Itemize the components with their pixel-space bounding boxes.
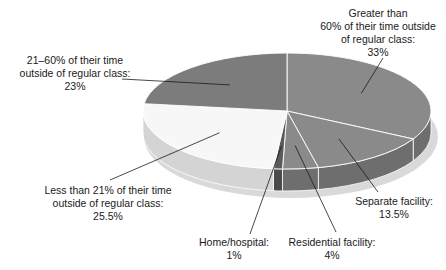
label-lt21-line2: outside of regular class: xyxy=(38,197,178,210)
pie-slice-r2160 xyxy=(144,53,287,111)
label-gt60-line3: of regular class: xyxy=(318,33,438,46)
label-residential: Residential facility: 4% xyxy=(282,236,382,262)
pie-top xyxy=(143,53,431,169)
label-r2160-value: 23% xyxy=(10,80,140,93)
label-separate-value: 13.5% xyxy=(346,208,442,221)
label-lt21-value: 25.5% xyxy=(38,210,178,223)
label-r2160-line1: 21–60% of their time xyxy=(10,54,140,67)
label-residential-value: 4% xyxy=(282,249,382,262)
label-lt21-line1: Less than 21% of their time xyxy=(38,184,178,197)
label-lt21: Less than 21% of their time outside of r… xyxy=(38,184,178,223)
label-separate: Separate facility: 13.5% xyxy=(346,195,442,221)
pie-side-residential xyxy=(282,168,318,191)
pie-side-home xyxy=(273,169,282,191)
label-residential-line1: Residential facility: xyxy=(282,236,382,249)
label-r2160-line2: outside of regular class: xyxy=(10,67,140,80)
label-home-value: 1% xyxy=(194,249,274,262)
label-gt60: Greater than 60% of their time outside o… xyxy=(318,7,438,59)
label-gt60-line1: Greater than xyxy=(318,7,438,20)
label-gt60-line2: 60% of their time outside xyxy=(318,20,438,33)
label-r2160: 21–60% of their time outside of regular … xyxy=(10,54,140,93)
label-gt60-value: 33% xyxy=(318,46,438,59)
label-home: Home/hospital: 1% xyxy=(194,236,274,262)
label-home-line1: Home/hospital: xyxy=(194,236,274,249)
label-separate-line1: Separate facility: xyxy=(346,195,442,208)
